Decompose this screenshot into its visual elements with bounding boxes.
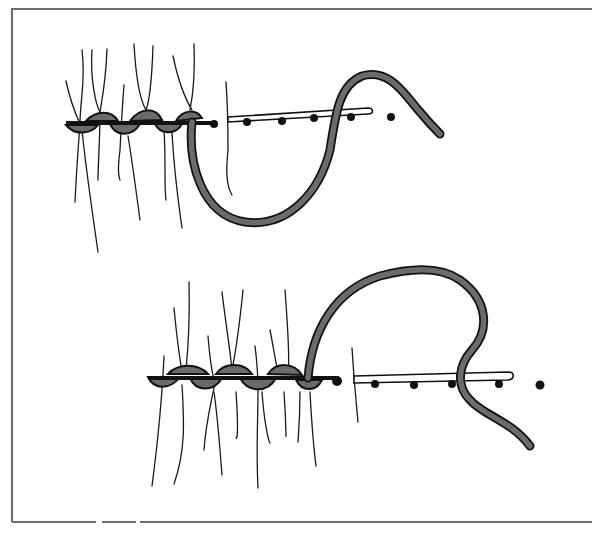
fabric-fibers-top [66, 44, 232, 252]
bottom-panel [148, 270, 545, 488]
top-panel [66, 44, 440, 252]
stitch-diagram [0, 0, 592, 534]
working-thread-bottom [308, 270, 530, 446]
diagram-frame [12, 9, 592, 522]
